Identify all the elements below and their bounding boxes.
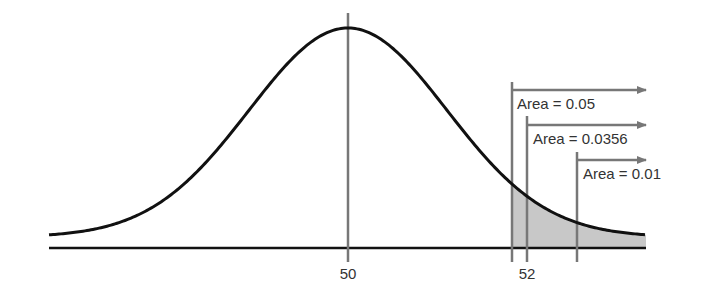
- area-label-0.05: Area = 0.05: [517, 96, 595, 111]
- area-label-0.01: Area = 0.01: [583, 166, 661, 181]
- mean-tick-label: 50: [340, 266, 357, 281]
- normal-curve-diagram: [0, 0, 719, 304]
- value-tick-label: 52: [519, 266, 536, 281]
- area-label-0.0356: Area = 0.0356: [533, 131, 628, 146]
- shaded-tail-area: [512, 184, 646, 248]
